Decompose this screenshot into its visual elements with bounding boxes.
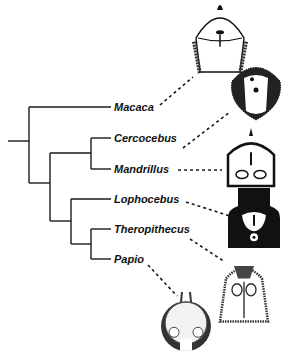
face-illustration-cercocebus-icon (232, 68, 281, 121)
face-illustration-lophocebus-icon (228, 188, 280, 248)
face-illustration-papio-icon (161, 292, 211, 351)
leader-line-papio (148, 265, 177, 296)
leader-line-macaca (160, 77, 193, 105)
phylogenetic-tree (0, 0, 287, 358)
label-papio: Papio (114, 253, 144, 265)
leader-line-lophocebus (186, 202, 230, 216)
leader-line-cercocebus (183, 112, 230, 148)
tree-branches (8, 107, 111, 259)
label-mandrillus: Mandrillus (114, 163, 169, 175)
illustrations (161, 5, 280, 351)
leader-lines (148, 77, 230, 296)
label-macaca: Macaca (114, 101, 154, 113)
face-illustration-mandrillus-icon (228, 128, 274, 186)
leader-line-theropithecus (190, 239, 225, 262)
label-cercocebus: Cercocebus (114, 132, 177, 144)
label-theropithecus: Theropithecus (114, 223, 190, 235)
face-illustration-macaca-icon (194, 5, 246, 74)
label-lophocebus: Lophocebus (114, 193, 179, 205)
face-illustration-theropithecus-icon (220, 266, 268, 321)
